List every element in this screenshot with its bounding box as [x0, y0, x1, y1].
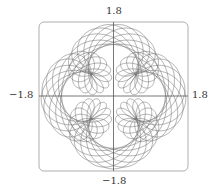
- y-max-tick-label: 1.8: [106, 6, 122, 16]
- x-max-tick-label: 1.8: [192, 90, 208, 100]
- x-min-tick-label: −1.8: [9, 90, 33, 100]
- y-min-tick-label: −1.8: [102, 176, 126, 186]
